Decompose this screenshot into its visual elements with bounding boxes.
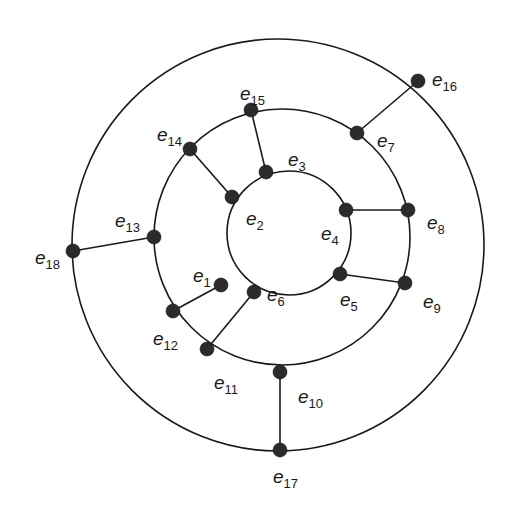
node-label-letter: e: [214, 372, 225, 393]
node-e5: [333, 267, 347, 281]
node-e3: [259, 165, 273, 179]
node-label-e9: e9: [423, 292, 441, 315]
node-label-e6: e6: [267, 285, 285, 308]
node-label-subscript: 18: [46, 257, 60, 272]
edge-e5-e9: [340, 274, 405, 283]
node-label-e11: e11: [214, 373, 238, 396]
node-group: [66, 74, 425, 457]
node-e16: [411, 74, 425, 88]
edge-e7-e16: [357, 81, 418, 133]
node-label-e12: e12: [153, 329, 178, 352]
node-label-letter: e: [298, 386, 309, 407]
node-label-letter: e: [427, 212, 438, 233]
node-label-letter: e: [432, 69, 443, 90]
node-label-e4: e4: [321, 224, 339, 247]
node-label-letter: e: [377, 130, 388, 151]
node-e7: [350, 126, 364, 140]
node-e4: [339, 203, 353, 217]
edge-e3-e15: [251, 110, 266, 172]
node-label-e14: e14: [157, 125, 182, 148]
edge-e13-e18: [73, 237, 154, 251]
node-label-subscript: 2: [257, 218, 264, 233]
node-label-e17: e17: [273, 467, 298, 490]
outer-ring: [72, 39, 484, 451]
node-label-letter: e: [153, 328, 164, 349]
node-e9: [398, 276, 412, 290]
node-label-subscript: 3: [299, 159, 306, 174]
node-label-subscript: 1: [204, 275, 211, 290]
node-label-subscript: 12: [164, 338, 178, 353]
node-label-letter: e: [321, 223, 332, 244]
node-label-subscript: 10: [309, 396, 323, 411]
node-label-letter: e: [240, 83, 251, 104]
node-label-subscript: 11: [225, 382, 239, 397]
node-label-subscript: 14: [168, 134, 182, 149]
node-e6: [247, 285, 261, 299]
node-label-subscript: 15: [251, 93, 265, 108]
node-label-subscript: 8: [438, 222, 445, 237]
node-label-subscript: 9: [434, 301, 441, 316]
node-label-subscript: 4: [332, 233, 339, 248]
node-label-letter: e: [423, 291, 434, 312]
node-label-letter: e: [35, 247, 46, 268]
node-e10: [273, 365, 287, 379]
node-label-e2: e2: [246, 209, 264, 232]
edge-group: [73, 81, 418, 450]
node-label-e10: e10: [298, 387, 323, 410]
node-e14: [183, 142, 197, 156]
node-label-e7: e7: [377, 131, 395, 154]
node-e8: [401, 203, 415, 217]
node-label-letter: e: [157, 124, 168, 145]
node-e17: [273, 443, 287, 457]
edge-e6-e11: [207, 292, 254, 349]
node-label-e3: e3: [288, 150, 306, 173]
node-label-subscript: 13: [126, 220, 140, 235]
node-e12: [166, 304, 180, 318]
node-label-letter: e: [273, 466, 284, 487]
node-label-e16: e16: [432, 70, 457, 93]
node-label-letter: e: [115, 210, 126, 231]
node-label-letter: e: [267, 284, 278, 305]
node-label-subscript: 17: [284, 476, 298, 491]
node-e11: [200, 342, 214, 356]
node-label-e18: e18: [35, 248, 60, 271]
node-label-e15: e15: [240, 84, 265, 107]
edge-e2-e14: [190, 149, 232, 197]
node-e18: [66, 244, 80, 258]
node-label-subscript: 6: [278, 294, 285, 309]
ring-group: [72, 39, 484, 451]
node-label-e1: e1: [193, 266, 211, 289]
node-e1: [214, 278, 228, 292]
node-label-e5: e5: [340, 290, 358, 313]
node-label-subscript: 7: [388, 140, 395, 155]
graph-diagram: e1e2e3e4e5e6e7e8e9e10e11e12e13e14e15e16e…: [0, 0, 512, 515]
node-label-letter: e: [288, 149, 299, 170]
node-label-letter: e: [193, 265, 204, 286]
node-label-subscript: 16: [443, 79, 457, 94]
node-label-subscript: 5: [351, 299, 358, 314]
node-label-e13: e13: [115, 211, 140, 234]
node-e13: [147, 230, 161, 244]
node-e2: [225, 190, 239, 204]
node-label-e8: e8: [427, 213, 445, 236]
node-label-letter: e: [340, 289, 351, 310]
node-label-letter: e: [246, 208, 257, 229]
